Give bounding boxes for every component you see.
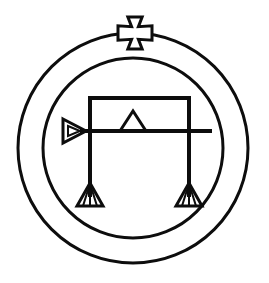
center-triangle-peak [120,111,146,131]
outer-circle [18,33,248,263]
cross-pattee-finial [118,17,152,49]
open-gate-rectangle [90,98,189,197]
left-arrowhead-pennant [63,119,86,143]
sigil-drawing [0,0,269,283]
inner-circle [43,58,223,238]
sigil-canvas: Goetic Seal Sigil Demon seal enclosed in… [0,0,269,283]
cross-pattee-mask [118,17,152,49]
